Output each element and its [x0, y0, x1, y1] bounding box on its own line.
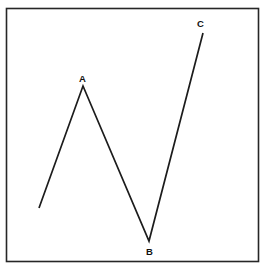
vertex-label-a: A: [79, 73, 86, 84]
figure-canvas: A B C: [0, 0, 267, 270]
vertex-label-b: B: [146, 246, 153, 257]
vertex-label-c: C: [197, 18, 204, 29]
border-rectangle: [7, 9, 259, 262]
